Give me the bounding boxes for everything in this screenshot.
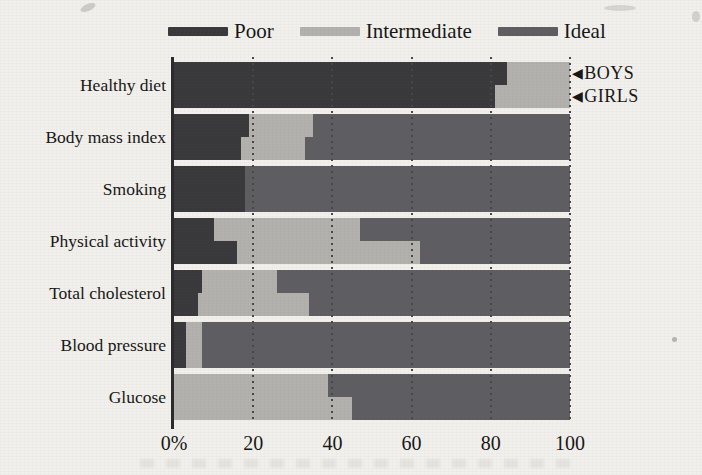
bar-glucose-girls <box>174 397 570 420</box>
segment-physical-activity-boys-poor <box>174 218 214 241</box>
segment-body-mass-index-boys-intermediate <box>249 114 312 137</box>
gridline-60 <box>411 57 413 423</box>
x-tick-60: 60 <box>380 431 444 455</box>
bar-body-mass-index-boys <box>174 114 570 137</box>
gridline-100 <box>569 57 571 423</box>
scan-artifact <box>672 337 677 342</box>
segment-blood-pressure-boys-ideal <box>202 322 570 345</box>
gridline-80 <box>490 57 492 423</box>
segment-physical-activity-girls-poor <box>174 241 237 264</box>
category-label-physical-activity: Physical activity <box>0 229 166 253</box>
bar-physical-activity-boys <box>174 218 570 241</box>
segment-blood-pressure-girls-poor <box>174 345 186 368</box>
segment-glucose-girls-intermediate <box>174 397 352 420</box>
category-label-total-cholesterol: Total cholesterol <box>0 281 166 305</box>
segment-physical-activity-girls-ideal <box>420 241 570 264</box>
legend-item-intermediate: Intermediate <box>300 16 472 46</box>
scan-artifact <box>604 5 636 11</box>
x-tick-100: 100 <box>538 431 602 455</box>
bar-glucose-boys <box>174 374 570 397</box>
legend-item-poor: Poor <box>168 16 274 46</box>
x-tick-80: 80 <box>459 431 523 455</box>
segment-total-cholesterol-boys-ideal <box>277 270 570 293</box>
bar-smoking-boys <box>174 166 570 189</box>
segment-total-cholesterol-girls-poor <box>174 293 198 316</box>
segment-healthy-diet-boys-intermediate <box>507 62 570 85</box>
segment-healthy-diet-girls-poor <box>174 85 495 108</box>
segment-blood-pressure-girls-ideal <box>202 345 570 368</box>
bar-physical-activity-girls <box>174 241 570 264</box>
ideal-swatch-icon <box>498 27 558 36</box>
segment-glucose-girls-ideal <box>352 397 570 420</box>
segment-physical-activity-girls-intermediate <box>237 241 419 264</box>
category-label-glucose: Glucose <box>0 385 166 409</box>
category-label-blood-pressure: Blood pressure <box>0 333 166 357</box>
segment-healthy-diet-girls-intermediate <box>495 85 570 108</box>
segment-smoking-boys-ideal <box>245 166 570 189</box>
x-tick-40: 40 <box>300 431 364 455</box>
scan-artifact <box>140 459 570 468</box>
segment-physical-activity-boys-intermediate <box>214 218 361 241</box>
gridline-40 <box>331 57 333 423</box>
boys-row-marker: ◀BOYS <box>572 62 634 85</box>
chart-legend: Poor Intermediate Ideal <box>168 16 632 46</box>
bar-smoking-girls <box>174 189 570 212</box>
segment-smoking-boys-poor <box>174 166 245 189</box>
y-axis-line <box>171 57 174 429</box>
segment-blood-pressure-boys-intermediate <box>186 322 202 345</box>
scan-artifact <box>692 11 700 22</box>
bar-healthy-diet-boys <box>174 62 570 85</box>
bar-blood-pressure-girls <box>174 345 570 368</box>
plot-area <box>174 62 570 420</box>
category-label-smoking: Smoking <box>0 177 166 201</box>
boys-marker-label: BOYS <box>584 63 634 83</box>
segment-total-cholesterol-boys-poor <box>174 270 202 293</box>
segment-total-cholesterol-girls-ideal <box>309 293 570 316</box>
category-label-body-mass-index: Body mass index <box>0 125 166 149</box>
gridline-20 <box>252 57 254 423</box>
girls-row-marker: ◀GIRLS <box>572 85 639 108</box>
x-tick-0: 0% <box>142 431 206 455</box>
legend-label-ideal: Ideal <box>564 16 606 46</box>
segment-blood-pressure-boys-poor <box>174 322 186 345</box>
bar-body-mass-index-girls <box>174 137 570 160</box>
left-triangle-icon: ◀ <box>572 66 583 81</box>
segment-body-mass-index-boys-ideal <box>313 114 570 137</box>
bar-total-cholesterol-boys <box>174 270 570 293</box>
scanned-figure-page: Poor Intermediate Ideal Healthy dietBody… <box>0 0 702 475</box>
legend-label-intermediate: Intermediate <box>366 16 472 46</box>
intermediate-swatch-icon <box>300 27 360 36</box>
segment-body-mass-index-girls-poor <box>174 137 241 160</box>
bar-blood-pressure-boys <box>174 322 570 345</box>
category-label-healthy-diet: Healthy diet <box>0 73 166 97</box>
segment-physical-activity-boys-ideal <box>360 218 570 241</box>
segment-blood-pressure-girls-intermediate <box>186 345 202 368</box>
legend-label-poor: Poor <box>234 16 274 46</box>
poor-swatch-icon <box>168 27 228 36</box>
scan-artifact <box>79 1 96 14</box>
segment-total-cholesterol-boys-intermediate <box>202 270 277 293</box>
segment-body-mass-index-girls-intermediate <box>241 137 304 160</box>
segment-body-mass-index-boys-poor <box>174 114 249 137</box>
bar-total-cholesterol-girls <box>174 293 570 316</box>
segment-smoking-girls-poor <box>174 189 245 212</box>
segment-healthy-diet-boys-poor <box>174 62 507 85</box>
left-triangle-icon: ◀ <box>572 89 583 104</box>
segment-smoking-girls-ideal <box>245 189 570 212</box>
girls-marker-label: GIRLS <box>584 86 639 106</box>
segment-glucose-boys-ideal <box>328 374 570 397</box>
x-tick-20: 20 <box>221 431 285 455</box>
bar-healthy-diet-girls <box>174 85 570 108</box>
legend-item-ideal: Ideal <box>498 16 606 46</box>
segment-body-mass-index-girls-ideal <box>305 137 570 160</box>
